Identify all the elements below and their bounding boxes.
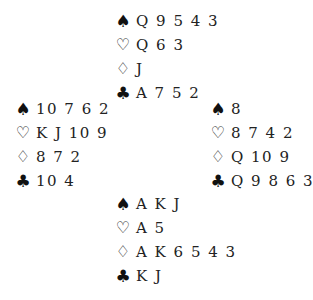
club-icon: ♣ — [14, 169, 32, 193]
east-diamonds: ♢ Q 10 9 — [209, 145, 313, 169]
south-diamonds: ♢ A K 6 5 4 3 — [114, 240, 237, 264]
south-hand: ♠ A K J ♡ A 5 ♢ A K 6 5 4 3 ♣ K J — [114, 192, 237, 288]
west-spades: ♠ 10 7 6 2 — [14, 97, 110, 121]
south-spades-cards: A K J — [136, 192, 181, 216]
north-diamonds-cards: J — [136, 57, 144, 81]
west-spades-cards: 10 7 6 2 — [36, 97, 110, 121]
club-icon: ♣ — [114, 264, 132, 288]
diamond-icon: ♢ — [14, 145, 32, 169]
north-diamonds: ♢ J — [114, 57, 219, 81]
west-hearts: ♡ K J 10 9 — [14, 121, 110, 145]
east-spades: ♠ 8 — [209, 97, 313, 121]
south-hearts: ♡ A 5 — [114, 216, 237, 240]
diamond-icon: ♢ — [114, 57, 132, 81]
east-hearts-cards: 8 7 4 2 — [231, 121, 294, 145]
east-diamonds-cards: Q 10 9 — [231, 145, 290, 169]
south-spades: ♠ A K J — [114, 192, 237, 216]
heart-icon: ♡ — [114, 216, 132, 240]
spade-icon: ♠ — [114, 9, 132, 33]
north-spades: ♠ Q 9 5 4 3 — [114, 9, 219, 33]
east-spades-cards: 8 — [231, 97, 242, 121]
east-clubs: ♣ Q 9 8 6 3 — [209, 169, 313, 193]
north-spades-cards: Q 9 5 4 3 — [136, 9, 219, 33]
heart-icon: ♡ — [114, 33, 132, 57]
heart-icon: ♡ — [14, 121, 32, 145]
heart-icon: ♡ — [209, 121, 227, 145]
diamond-icon: ♢ — [209, 145, 227, 169]
south-hearts-cards: A 5 — [136, 216, 166, 240]
west-diamonds: ♢ 8 7 2 — [14, 145, 110, 169]
east-clubs-cards: Q 9 8 6 3 — [231, 169, 313, 193]
club-icon: ♣ — [114, 81, 132, 105]
south-clubs-cards: K J — [136, 264, 163, 288]
club-icon: ♣ — [209, 169, 227, 193]
north-clubs: ♣ A 7 5 2 — [114, 81, 219, 105]
spade-icon: ♠ — [14, 97, 32, 121]
north-clubs-cards: A 7 5 2 — [136, 81, 200, 105]
spade-icon: ♠ — [209, 97, 227, 121]
west-clubs: ♣ 10 4 — [14, 169, 110, 193]
west-clubs-cards: 10 4 — [36, 169, 75, 193]
west-hearts-cards: K J 10 9 — [36, 121, 108, 145]
north-hearts-cards: Q 6 3 — [136, 33, 184, 57]
west-hand: ♠ 10 7 6 2 ♡ K J 10 9 ♢ 8 7 2 ♣ 10 4 — [14, 97, 110, 193]
south-diamonds-cards: A K 6 5 4 3 — [136, 240, 237, 264]
east-hearts: ♡ 8 7 4 2 — [209, 121, 313, 145]
south-clubs: ♣ K J — [114, 264, 237, 288]
diamond-icon: ♢ — [114, 240, 132, 264]
north-hearts: ♡ Q 6 3 — [114, 33, 219, 57]
east-hand: ♠ 8 ♡ 8 7 4 2 ♢ Q 10 9 ♣ Q 9 8 6 3 — [209, 97, 313, 193]
north-hand: ♠ Q 9 5 4 3 ♡ Q 6 3 ♢ J ♣ A 7 5 2 — [114, 9, 219, 105]
west-diamonds-cards: 8 7 2 — [36, 145, 82, 169]
spade-icon: ♠ — [114, 192, 132, 216]
